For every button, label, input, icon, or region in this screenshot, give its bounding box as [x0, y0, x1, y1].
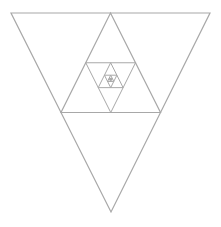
nested-triangles-diagram — [0, 0, 221, 227]
triangle-level-8 — [110, 79, 111, 80]
